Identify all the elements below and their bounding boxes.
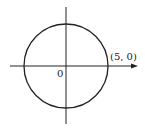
origin-label: 0 xyxy=(57,68,63,79)
x-axis-arrow-icon xyxy=(131,64,138,69)
point-label: (5, 0) xyxy=(110,51,137,62)
circle-diagram: 0 (5, 0) xyxy=(0,0,145,134)
